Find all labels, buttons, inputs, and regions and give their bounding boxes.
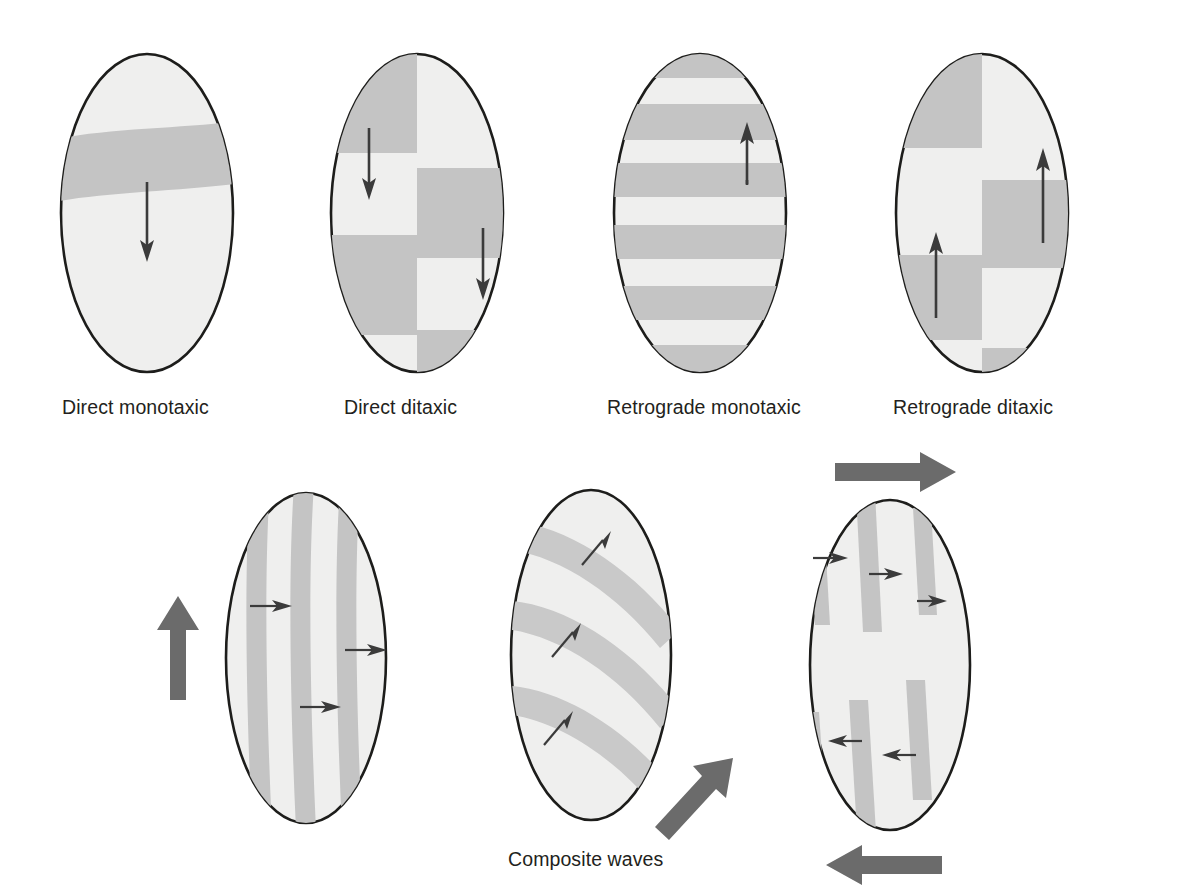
band-stripe <box>604 104 796 140</box>
diagram-canvas: Direct monotaxic Direct ditaxic <box>0 0 1178 894</box>
panel-retrograde-monotaxic: Retrograde monotaxic <box>604 52 801 418</box>
band-stripe <box>604 52 796 78</box>
caption-direct-ditaxic: Direct ditaxic <box>344 396 457 418</box>
outer-arrow-left-bottom <box>826 845 942 885</box>
band-block <box>982 348 1077 398</box>
band-block <box>417 330 512 390</box>
ellipse-outline <box>614 54 786 372</box>
band-block <box>982 180 1077 268</box>
band-stripe <box>604 225 796 259</box>
band-block <box>325 50 417 153</box>
outer-arrow-up <box>157 596 199 700</box>
band-block <box>890 50 982 148</box>
band-stripe-upper <box>809 520 830 625</box>
panel-direct-monotaxic: Direct monotaxic <box>55 54 248 418</box>
caption-composite-waves: Composite waves <box>508 848 664 870</box>
outer-arrow-right-top <box>835 452 956 492</box>
panel-composite-antidromic <box>801 452 970 885</box>
band-stripe <box>604 345 796 379</box>
outer-arrow-diag <box>655 758 733 840</box>
panel-composite-vertical <box>157 485 387 830</box>
band-block <box>417 168 512 258</box>
panel-composite-oblique: Composite waves <box>490 490 733 870</box>
caption-retrograde-monotaxic: Retrograde monotaxic <box>607 396 801 418</box>
ellipse-outline <box>810 500 970 830</box>
band-group <box>246 485 362 830</box>
caption-direct-monotaxic: Direct monotaxic <box>62 396 209 418</box>
panel-direct-ditaxic: Direct ditaxic <box>325 50 512 418</box>
panel-retrograde-ditaxic: Retrograde ditaxic <box>890 50 1077 418</box>
caption-retrograde-ditaxic: Retrograde ditaxic <box>893 396 1053 418</box>
band-stripe <box>604 163 796 197</box>
band-block <box>325 235 417 335</box>
figure-root: Direct monotaxic Direct ditaxic <box>0 0 1178 894</box>
